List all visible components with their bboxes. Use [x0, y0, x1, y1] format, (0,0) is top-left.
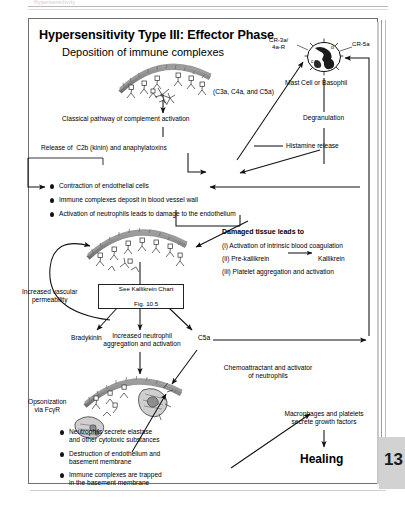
bullet-dot-icon: [50, 198, 54, 203]
bullet-dot-icon: [50, 212, 54, 217]
damage-item-1-label: Neutrophils secrete elastase and other c…: [69, 428, 160, 444]
effect-item-3: Activation of neutrophils leads to damag…: [50, 210, 236, 218]
label-c5a: C5a: [198, 334, 210, 342]
illustration-mast-cell: c d: [305, 39, 344, 76]
damage-item-3: Immune complexes are trapped in the base…: [60, 471, 162, 487]
label-mast-cell-caption: Mast Cell or Basophil: [285, 79, 347, 87]
damage-item-1: Neutrophils secrete elastase and other c…: [60, 428, 160, 444]
damage-item-3-label: Immune complexes are trapped in the base…: [69, 471, 162, 487]
bullet-dot-icon: [60, 473, 64, 478]
bullet-dot-icon: [60, 452, 64, 457]
effect-item-2-label: Immune complexes deposit in blood vessel…: [59, 196, 198, 204]
label-classical-pathway: Classical pathway of complement activati…: [62, 115, 190, 123]
leader-cr3a: [297, 45, 308, 50]
damaged-item-1: (i) Activation of intrinsic blood coagul…: [222, 242, 343, 250]
figure-page: Hypersensitivity 13 Hypersensitivity Typ…: [0, 0, 405, 506]
kallikrein-chart-box[interactable]: See Kallikrein Chart Fig. 10.5: [98, 284, 184, 309]
heading-damaged-tissue: Damaged tissue leads to: [222, 228, 304, 236]
damaged-item-3: (iii) Platelet aggregation and activatio…: [222, 268, 334, 276]
arrow-c2b-right-branch: [188, 153, 206, 172]
bullet-dot-icon: [60, 430, 64, 435]
label-neutrophil-aggregation: Increased neutrophil aggregation and act…: [96, 332, 188, 348]
arrow-histamine-to-contraction: [240, 150, 320, 173]
label-anaphylatoxins: (C3a, C4a, and C5a): [213, 88, 274, 96]
leader-cr5a: [340, 47, 352, 51]
effect-item-1-label: Contraction of endothelial cells: [59, 182, 149, 190]
illustration-vessel-middle: [88, 228, 187, 272]
bullet-dot-icon: [50, 184, 54, 189]
label-opsonization: Opsonization via FcγR: [28, 398, 67, 414]
effect-item-3-label: Activation of neutrophils leads to damag…: [59, 210, 236, 218]
illustration-vessel-top: [120, 65, 211, 105]
label-vascular-permeability: Increased vascular permeability: [22, 288, 77, 304]
label-healing: Healing: [300, 452, 343, 466]
label-cr3a-4a-r: CR-3a/ 4a-R: [269, 36, 288, 50]
damage-item-2-label: Destruction of endothelium and basement …: [69, 450, 160, 466]
effect-item-1: Contraction of endothelial cells: [50, 182, 149, 190]
damage-item-2: Destruction of endothelium and basement …: [60, 450, 160, 466]
label-degranulation: Degranulation: [303, 114, 344, 122]
kallikrein-box-line1: See Kallikrein Chart: [119, 285, 174, 292]
label-cr5a: CR-5a: [352, 40, 370, 47]
arrow-c5a-to-neutrophils: [172, 350, 197, 384]
damaged-item-2: (ii) Pre-kallikrein: [222, 255, 269, 263]
label-release-c2b: Release of C2b (kinin) and anaphylatoxin…: [41, 144, 167, 152]
arrow-c5a-to-mast-cell: [345, 58, 369, 336]
effect-item-2: Immune complexes deposit in blood vessel…: [50, 196, 198, 204]
label-histamine-release: Histamine release: [286, 142, 339, 150]
kallikrein-box-line2: Fig. 10.5: [134, 300, 158, 307]
label-growth-factors: Macrophages and platelets secrete growth…: [274, 410, 374, 426]
svg-text:d: d: [331, 44, 334, 50]
label-kallikrein-product: Kallikrein: [318, 255, 345, 263]
arrow-c2b-left-branch: [28, 158, 45, 187]
label-chemoattractant: Chemoattractant and activator of neutrop…: [203, 364, 333, 380]
